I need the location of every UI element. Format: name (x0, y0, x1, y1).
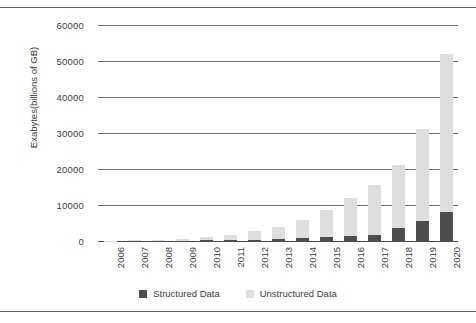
legend-item-structured: Structured Data (139, 288, 220, 299)
bar-segment-structured (320, 237, 333, 241)
stacked-bar (272, 227, 285, 241)
chart-figure: Exabytes(billions of GB) 010000200003000… (0, 0, 476, 323)
legend-swatch-structured-icon (139, 290, 147, 298)
plot-area (98, 25, 458, 242)
stacked-bar (440, 54, 453, 241)
legend-item-unstructured: Unstructured Data (246, 288, 337, 299)
top-rule (0, 7, 476, 8)
bottom-rule (0, 311, 476, 312)
y-axis-tick-label: 40000 (0, 92, 92, 103)
stacked-bar (368, 185, 381, 241)
bar-segment-unstructured (320, 210, 333, 237)
x-axis-tick-labels: 2006200720082009201020112012201320142015… (98, 245, 458, 285)
bar-segment-unstructured (416, 129, 429, 221)
bar-segment-structured (224, 240, 237, 241)
stacked-bar (200, 237, 213, 241)
stacked-bar (296, 220, 309, 241)
bar-segment-unstructured (344, 198, 357, 236)
chart-legend: Structured Data Unstructured Data (0, 288, 476, 299)
bar-segment-structured (392, 228, 405, 241)
legend-swatch-unstructured-icon (246, 290, 254, 298)
legend-label-unstructured: Unstructured Data (260, 288, 337, 299)
bar-segment-structured (368, 235, 381, 241)
stacked-bar (416, 129, 429, 241)
legend-label-structured: Structured Data (153, 288, 220, 299)
bar-segment-unstructured (392, 165, 405, 228)
bar-segment-unstructured (272, 227, 285, 239)
bar-group (98, 25, 458, 242)
stacked-bar (344, 198, 357, 241)
bar-segment-structured (272, 239, 285, 241)
stacked-bar (224, 235, 237, 241)
bar-segment-unstructured (296, 220, 309, 238)
stacked-bar (152, 240, 165, 241)
bar-segment-structured (440, 212, 453, 241)
bar-segment-unstructured (248, 231, 261, 239)
stacked-bar (248, 231, 261, 241)
bar-segment-structured (344, 236, 357, 241)
bar-segment-structured (296, 238, 309, 241)
bar-segment-structured (248, 240, 261, 241)
stacked-bar (128, 240, 141, 241)
y-axis-tick-label: 60000 (0, 20, 92, 31)
bar-segment-structured (200, 240, 213, 241)
y-axis-tick-label: 50000 (0, 56, 92, 67)
y-axis-tick-label: 0 (0, 236, 92, 247)
bar-segment-structured (416, 221, 429, 241)
y-axis-tick-label: 20000 (0, 164, 92, 175)
y-axis-tick-labels: 0100002000030000400005000060000 (0, 25, 92, 242)
bar-segment-unstructured (368, 185, 381, 235)
y-axis-tick-label: 10000 (0, 200, 92, 211)
stacked-bar (176, 239, 189, 241)
y-axis-tick-label: 30000 (0, 128, 92, 139)
stacked-bar (320, 210, 333, 241)
stacked-bar (392, 165, 405, 241)
bar-segment-unstructured (440, 54, 453, 212)
